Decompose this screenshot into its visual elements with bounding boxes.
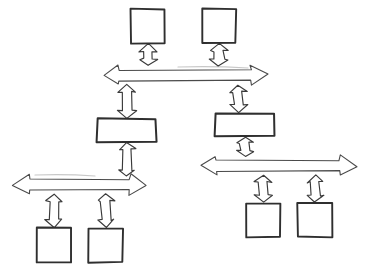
- horizontal-arrow-layer: [12, 65, 357, 195]
- arrow-bar-to-bottom-right-box-2: [307, 175, 324, 202]
- bottom-right-horizontal-arrow: [201, 155, 357, 175]
- smudge-top-bar: [178, 67, 248, 68]
- bottom-left-box-1[interactable]: [37, 228, 71, 263]
- smudge-middle-bar: [35, 175, 95, 176]
- middle-left-box[interactable]: [97, 118, 157, 142]
- top-right-box[interactable]: [202, 8, 236, 42]
- bottom-left-horizontal-arrow: [12, 174, 146, 196]
- bottom-left-box-2[interactable]: [88, 229, 123, 263]
- arrow-bar-to-middle-right-box: [230, 85, 248, 112]
- diagram-drawing-surface: [0, 0, 371, 272]
- arrow-middle-right-box-to-bar: [237, 137, 254, 156]
- arrow-middle-left-box-to-bar: [119, 143, 136, 176]
- bottom-right-box-2[interactable]: [297, 203, 332, 237]
- arrow-bar-to-bottom-right-box-1: [254, 175, 272, 202]
- top-left-box[interactable]: [131, 9, 165, 44]
- arrow-bar-to-bottom-left-box-2: [98, 194, 115, 228]
- arrow-bar-to-bottom-left-box-1: [45, 194, 62, 228]
- arrow-bar-to-middle-left-box: [117, 84, 136, 118]
- bottom-right-box-1[interactable]: [246, 204, 280, 238]
- arrow-top-left-box-to-bar: [139, 43, 158, 65]
- arrow-top-right-box-to-bar: [209, 43, 228, 66]
- diagram-canvas: [0, 0, 371, 272]
- middle-right-box[interactable]: [215, 113, 275, 136]
- node-layer: [37, 8, 333, 262]
